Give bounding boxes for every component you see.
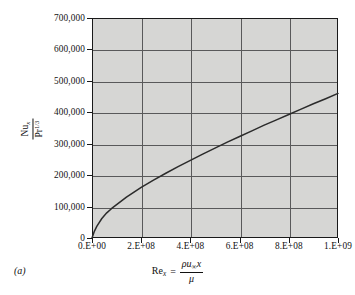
axis-label-y-600000: 600,000	[54, 44, 85, 54]
axis-title-x-denominator: μ	[180, 272, 203, 285]
tick-y-600000	[87, 49, 92, 50]
axis-label-x-6e08: 6.E+08	[215, 241, 265, 251]
axis-label-x-1e09: 1.E+09	[313, 241, 355, 251]
panel-label: (a)	[14, 265, 26, 276]
tick-y-700000	[87, 18, 92, 19]
axis-label-y-100000: 100,000	[54, 202, 85, 212]
tick-y-200000	[87, 175, 92, 176]
axis-title-x-equals: =	[166, 266, 180, 277]
axis-title-y-nu-subscript: x	[24, 122, 31, 125]
axis-title-y: Nux Pr1/3	[21, 86, 44, 140]
axis-title-y-fraction: Nux Pr1/3	[21, 119, 44, 140]
axis-title-x: Rex= ρu∞x μ	[0, 258, 355, 284]
axis-label-y-200000: 200,000	[54, 170, 85, 180]
tick-y-500000	[87, 81, 92, 82]
tick-y-400000	[87, 112, 92, 113]
axis-label-y-400000: 400,000	[54, 107, 85, 117]
axis-label-x-2e08: 2.E+08	[116, 241, 166, 251]
axis-label-y-300000: 300,000	[54, 139, 85, 149]
axis-title-x-rho-u: ρu	[182, 258, 192, 269]
axis-title-y-denominator: Pr1/3	[33, 119, 45, 140]
axis-label-y-500000: 500,000	[54, 76, 85, 86]
figure-panel-a: 700,000 600,000 500,000 400,000 300,000 …	[0, 0, 355, 295]
axis-title-x-re: Rex	[152, 265, 166, 278]
axis-title-y-pr-exponent: 1/3	[33, 121, 40, 130]
tick-y-100000	[87, 207, 92, 208]
axis-label-x-4e08: 4.E+08	[165, 241, 215, 251]
axis-title-x-numerator-x: x	[197, 258, 201, 269]
axis-title-x-re-main: Re	[152, 265, 163, 276]
axis-title-y-nu: Nu	[20, 125, 30, 137]
axis-label-x-0e00: 0.E+00	[67, 241, 117, 251]
axis-label-y-700000: 700,000	[54, 13, 85, 23]
axis-title-x-numerator: ρu∞x	[180, 258, 203, 272]
axis-title-y-pr: Pr	[34, 129, 44, 137]
axis-label-x-8e08: 8.E+08	[264, 241, 314, 251]
tick-y-300000	[87, 144, 92, 145]
axis-title-x-fraction: ρu∞x μ	[180, 258, 203, 284]
axis-title-y-numerator: Nux	[21, 119, 32, 140]
